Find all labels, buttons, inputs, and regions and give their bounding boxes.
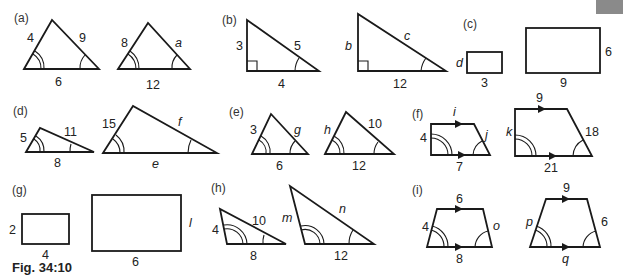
side-label: 3 — [481, 76, 488, 90]
side-label: 2 — [9, 223, 16, 237]
triangle-a-right: 8 a 12 — [118, 23, 190, 92]
part-label-c: (c) — [463, 17, 477, 31]
triangle-e-right: h 10 12 — [324, 112, 394, 173]
part-e: (e) 3 g 6 h 10 12 — [229, 105, 394, 173]
triangle-d-left: 5 11 8 — [20, 125, 94, 170]
side-label: 21 — [544, 161, 558, 175]
part-g: (g) 2 4 l 6 — [9, 183, 193, 269]
side-label: f — [178, 115, 183, 129]
side-label: o — [493, 219, 500, 233]
trapezium-i-left: 6 4 o 8 — [422, 192, 500, 266]
triangle-b-right: b c 12 — [345, 14, 446, 91]
side-label: 9 — [79, 31, 86, 45]
part-i: (i) 6 4 o 8 9 p 6 q — [412, 181, 608, 266]
part-label-i: (i) — [412, 183, 423, 197]
figure-caption: Fig. 34:10 — [12, 260, 72, 275]
part-b: (b) 3 5 4 b c 12 — [222, 13, 446, 91]
side-label: 10 — [252, 214, 266, 228]
side-label: k — [506, 125, 513, 139]
trapezium-i-right: 9 p 6 q — [525, 181, 608, 266]
corner-tab — [596, 0, 623, 14]
side-label: 12 — [393, 77, 407, 91]
side-label: 6 — [605, 45, 612, 59]
side-label: m — [282, 211, 292, 225]
rectangle-c-left: d 3 — [456, 52, 502, 90]
part-d: (d) 5 11 8 15 f e — [13, 104, 217, 171]
side-label: c — [404, 29, 411, 43]
side-label: 6 — [55, 75, 62, 89]
rectangle-c-right: 6 9 — [526, 28, 612, 90]
side-label: 4 — [212, 223, 219, 237]
part-f: (f) i 4 j 7 9 k 18 21 — [412, 91, 599, 175]
side-label: 8 — [121, 36, 128, 50]
triangle-d-right: 15 f e — [102, 106, 217, 171]
triangle-h-left: 4 10 8 — [212, 209, 286, 263]
side-label: 6 — [276, 159, 283, 173]
triangle-e-left: 3 g 6 — [250, 114, 308, 173]
side-label: 12 — [334, 249, 348, 263]
trapezium-f-left: i 4 j 7 — [420, 105, 490, 174]
part-label-f: (f) — [412, 107, 423, 121]
side-label: 4 — [420, 131, 427, 145]
side-label: a — [175, 36, 182, 50]
side-label: i — [453, 105, 457, 119]
side-label: 8 — [54, 156, 61, 170]
side-label: 10 — [368, 117, 382, 131]
side-label: 15 — [102, 117, 116, 131]
side-label: 6 — [601, 215, 608, 229]
side-label: 9 — [560, 76, 567, 90]
side-label: 4 — [422, 220, 429, 234]
side-label: 8 — [250, 249, 257, 263]
side-label: 3 — [250, 123, 257, 137]
part-label-e: (e) — [229, 105, 244, 119]
part-c: (c) d 3 6 9 — [456, 17, 612, 90]
part-label-g: (g) — [12, 183, 27, 197]
part-label-h: (h) — [211, 181, 226, 195]
side-label: 11 — [64, 125, 77, 139]
side-label: e — [152, 157, 159, 171]
side-label: 12 — [146, 78, 160, 92]
triangle-b-left: 3 5 4 — [236, 20, 319, 91]
side-label: 6 — [456, 192, 463, 206]
part-label-b: (b) — [222, 13, 237, 27]
side-label: 7 — [456, 160, 463, 174]
side-label: 3 — [236, 39, 243, 53]
rectangle-g-left: 2 4 — [9, 214, 69, 262]
side-label: b — [345, 39, 352, 53]
side-label: h — [324, 123, 331, 137]
side-label: n — [339, 202, 346, 216]
side-label: d — [456, 56, 464, 70]
similar-shapes-figure: (a) 4 9 6 8 a 12 (b) 3 5 4 — [0, 0, 623, 277]
side-label: 18 — [585, 125, 599, 139]
side-label: 6 — [132, 255, 139, 269]
side-label: q — [562, 252, 569, 266]
trapezium-f-right: 9 k 18 21 — [506, 91, 599, 175]
side-label: 5 — [294, 39, 301, 53]
rectangle-g-right: l 6 — [92, 195, 193, 269]
side-label: 4 — [27, 31, 34, 45]
part-label-a: (a) — [14, 11, 29, 25]
side-label: p — [525, 215, 533, 229]
part-label-d: (d) — [13, 104, 28, 118]
side-label: 4 — [278, 77, 285, 91]
side-label: 5 — [20, 131, 27, 145]
triangle-h-right: m n 12 — [282, 186, 374, 263]
side-label: 9 — [563, 181, 570, 195]
side-label: g — [294, 123, 301, 137]
side-label: j — [483, 128, 489, 142]
part-a: (a) 4 9 6 8 a 12 — [14, 11, 190, 92]
side-label: 9 — [536, 91, 543, 105]
side-label: 12 — [352, 159, 366, 173]
part-h: (h) 4 10 8 m n 12 — [211, 181, 374, 263]
side-label: l — [189, 216, 193, 230]
triangle-a-left: 4 9 6 — [24, 20, 99, 89]
side-label: 8 — [456, 252, 463, 266]
